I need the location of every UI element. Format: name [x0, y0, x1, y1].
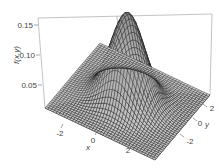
z-axis-label: f(x,y): [12, 46, 21, 64]
z-tick-label: 0.10: [19, 51, 35, 60]
surface-plot: 0.15 0.10 0.05 f(x,y) -2 0 2 x 2 0 -2 y: [0, 0, 223, 167]
x-tick-label: -2: [56, 129, 64, 138]
y-tick-label: 2: [210, 104, 215, 113]
surface-mesh: [45, 13, 210, 161]
y-tick-label: -2: [186, 137, 194, 146]
z-tick-label: 0.15: [17, 21, 33, 30]
x-tick-label: 0: [91, 136, 96, 145]
x-tick-label: 2: [126, 146, 131, 155]
y-axis-label: y: [204, 120, 210, 129]
y-tick-label: 0: [198, 119, 203, 128]
z-axis: 0.15 0.10 0.05 f(x,y): [12, 21, 42, 90]
z-tick-label: 0.05: [21, 81, 37, 90]
